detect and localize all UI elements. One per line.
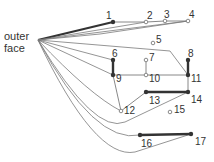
node-label-1: 1 xyxy=(106,11,112,21)
node-label-4: 4 xyxy=(189,10,195,20)
node-label-3: 3 xyxy=(164,10,170,20)
outer-face-label: outer face xyxy=(4,30,29,54)
node-15 xyxy=(168,110,172,114)
node-label-17: 17 xyxy=(195,137,206,147)
node-label-13: 13 xyxy=(149,96,160,106)
node-label-12: 12 xyxy=(124,106,135,116)
edge-16-17 xyxy=(140,134,191,135)
outer-face-edge xyxy=(38,40,140,136)
node-label-2: 2 xyxy=(147,11,153,21)
outer-face-label-line1: outer xyxy=(4,30,29,42)
node-14 xyxy=(186,90,190,94)
node-9 xyxy=(111,73,115,77)
node-7 xyxy=(144,58,148,62)
node-17 xyxy=(189,132,193,136)
outer-face-edges xyxy=(38,21,191,153)
node-13 xyxy=(144,90,148,94)
node-5 xyxy=(151,41,155,45)
node-11 xyxy=(186,73,190,77)
node-label-7: 7 xyxy=(149,53,155,63)
node-label-10: 10 xyxy=(149,74,160,84)
outer-face-edge xyxy=(38,40,121,111)
node-10 xyxy=(144,73,148,77)
outer-face-edge xyxy=(38,22,146,40)
node-label-15: 15 xyxy=(174,105,185,115)
node-label-6: 6 xyxy=(112,49,118,59)
node-label-9: 9 xyxy=(116,74,122,84)
node-label-5: 5 xyxy=(156,35,162,45)
outer-face-label-line2: face xyxy=(4,42,29,54)
outer-face-edge xyxy=(38,22,113,40)
edge-2-3 xyxy=(146,21,165,22)
node-16 xyxy=(138,133,142,137)
planar-graph-diagram xyxy=(0,0,214,162)
node-label-11: 11 xyxy=(191,74,201,84)
node-12 xyxy=(119,109,123,113)
node-label-14: 14 xyxy=(191,95,202,105)
node-label-8: 8 xyxy=(188,49,194,59)
node-label-16: 16 xyxy=(141,139,152,149)
